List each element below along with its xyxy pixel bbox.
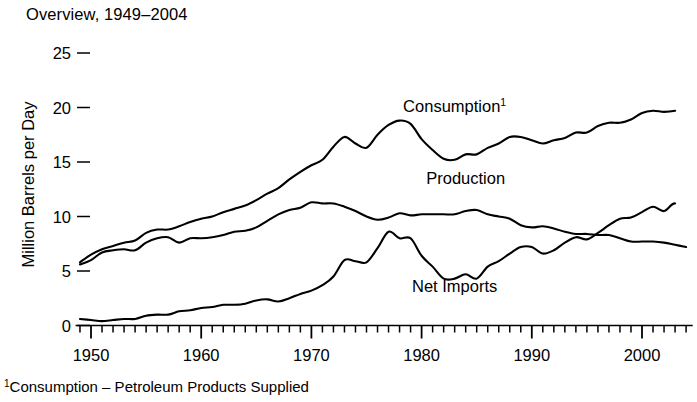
series-line-production <box>80 202 686 264</box>
y-tick-label: 15 <box>53 153 71 171</box>
figure-footnote: 1Consumption – Petroleum Products Suppli… <box>4 378 309 395</box>
y-tick-label: 0 <box>62 317 71 335</box>
x-tick-label: 1980 <box>403 346 440 364</box>
y-tick-label: 25 <box>53 44 71 62</box>
y-tick-label: 5 <box>62 262 71 280</box>
series-label: Consumption1 <box>403 96 506 115</box>
y-tick-label: 20 <box>53 99 71 117</box>
series-label: Production <box>426 169 505 187</box>
series-label: Net Imports <box>412 277 497 295</box>
data-series-group <box>80 111 686 321</box>
series-label-superscript: 1 <box>500 96 506 108</box>
x-tick-label: 1970 <box>293 346 330 364</box>
petroleum-overview-figure: Overview, 1949–2004 Million Barrels per … <box>0 0 697 402</box>
line-chart-plot: 0510152025 195019601970198019902000 Cons… <box>0 0 697 402</box>
footnote-text: Consumption – Petroleum Products Supplie… <box>10 378 309 395</box>
x-tick-label: 1960 <box>183 346 220 364</box>
x-axis: 195019601970198019902000 <box>73 326 693 364</box>
y-tick-label: 10 <box>53 208 71 226</box>
x-tick-label: 2000 <box>624 346 661 364</box>
x-tick-label: 1990 <box>513 346 550 364</box>
series-line-net-imports <box>80 203 675 321</box>
y-axis-ticks: 0510152025 <box>53 44 90 335</box>
x-tick-label: 1950 <box>73 346 110 364</box>
